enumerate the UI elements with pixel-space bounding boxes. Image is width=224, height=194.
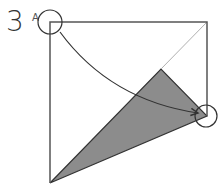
fold-diagram [0,0,224,194]
diagonal-crease [161,22,207,69]
shaded-flap [50,69,207,183]
